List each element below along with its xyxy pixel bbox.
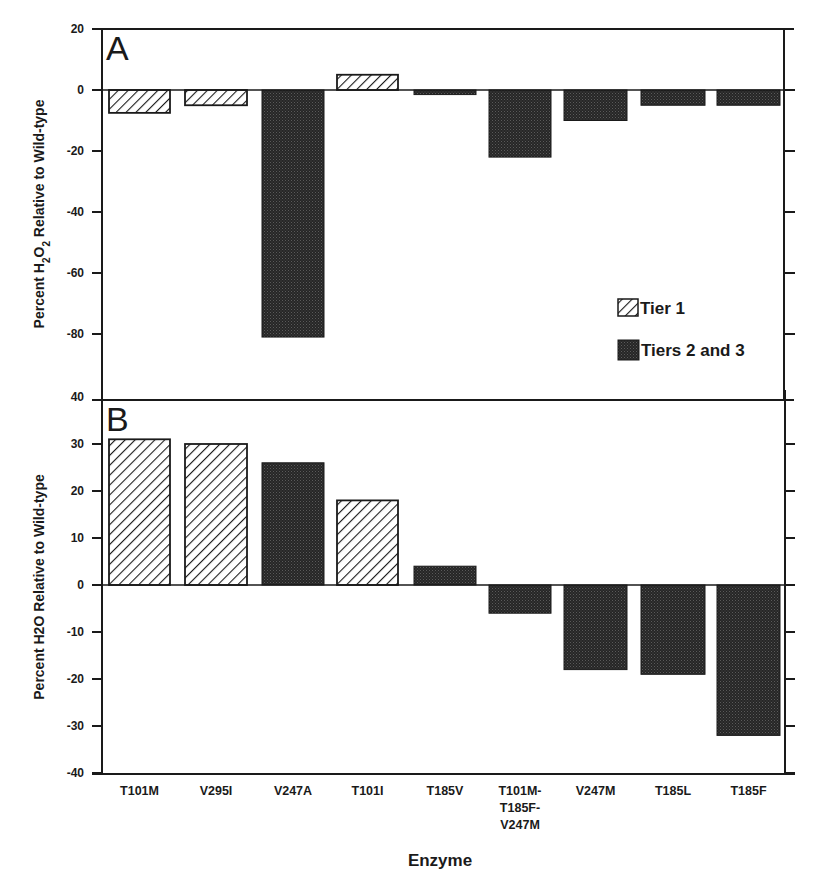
bar-a-t185f [717,90,780,105]
x-axis-categories: T101MV295IV247AT101IT185VT101M-T185F-V24… [120,784,767,832]
panel-a-tick-label: 20 [71,22,85,36]
panel-b-tick-label: -40 [67,766,85,780]
x-category-label: T101M [120,784,159,798]
legend-label-tier1: Tier 1 [640,299,685,318]
legend-swatch-tier1 [618,299,638,316]
x-category-label: T185V [427,784,464,798]
x-category-label: V247A [274,784,312,798]
bar-a-t101m-t185f-v247m [489,90,551,157]
panel-b: 403020100-10-20-30-40 B Percent H2O Rela… [31,390,795,780]
panel-b-y-axis-title: Percent H2O Relative to Wild-type [31,474,47,700]
panel-a-bars [109,75,780,337]
bar-b-t101m [109,439,170,585]
bar-b-t185v [414,566,476,585]
x-category-label: T185F [730,784,766,798]
panel-a: 200-20-40-60-80 A Percent H2O2 Relative … [31,22,795,400]
panel-b-letter: B [106,400,129,438]
panel-a-tick-label: -40 [67,205,85,219]
panel-a-tick-label: 0 [77,83,84,97]
x-category-label: T101M-T185F-V247M [498,784,541,832]
panel-b-tick-label: -10 [67,625,85,639]
panel-a-tick-label: -20 [67,144,85,158]
panel-b-axes: 403020100-10-20-30-40 [67,390,795,780]
panel-b-tick-label: -20 [67,672,85,686]
figure: 200-20-40-60-80 A Percent H2O2 Relative … [0,0,821,890]
bar-a-t101i [337,75,398,90]
panel-a-tick-label: -60 [67,266,85,280]
bar-a-t185l [641,90,705,105]
bar-a-v295i [185,90,247,105]
panel-a-tick-label: -80 [67,327,85,341]
panel-b-tick-label: 0 [77,578,84,592]
panel-b-tick-label: 30 [71,437,85,451]
x-category-label: V247M [576,784,616,798]
bar-b-t185l [641,585,705,674]
x-category-label: T185L [655,784,691,798]
panel-b-tick-label: 10 [71,531,85,545]
panel-b-tick-label: 20 [71,484,85,498]
bar-b-t101i [337,500,398,585]
panel-b-bars [109,439,780,735]
panel-b-tick-label: -30 [67,719,85,733]
bar-b-t101m-t185f-v247m [489,585,551,613]
panel-a-ticks: 200-20-40-60-80 [67,22,795,341]
bar-a-t101m [109,90,170,113]
legend-label-tier23: Tiers 2 and 3 [641,341,745,360]
panel-b-tick-label: 40 [71,390,85,404]
panel-a-letter: A [106,29,129,67]
x-category-label: T101I [352,784,384,798]
panel-a-y-axis-title: Percent H2O2 Relative to Wild-type [31,99,52,328]
bar-b-v247m [564,585,627,670]
bar-a-v247a [262,90,324,337]
x-axis-title: Enzyme [408,851,472,870]
legend: Tier 1 Tiers 2 and 3 [618,299,745,360]
bar-b-v247a [262,463,324,585]
bar-b-v295i [185,444,247,585]
bar-b-t185f [717,585,780,735]
legend-swatch-tier23 [618,340,639,360]
x-category-label: V295I [200,784,233,798]
bar-a-v247m [564,90,627,121]
